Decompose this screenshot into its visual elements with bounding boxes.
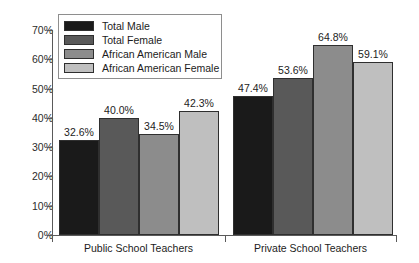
x-axis-tick-start (52, 236, 53, 242)
legend-swatch-total-female (64, 35, 94, 45)
legend-swatch-total-male (64, 21, 94, 31)
bar-value-label: 32.6% (53, 127, 105, 138)
legend-label-total-female: Total Female (102, 35, 162, 46)
y-axis-tick-30%: 30% (0, 147, 53, 148)
bar-value-label: 64.8% (307, 32, 359, 43)
y-axis-tick-70%: 70% (0, 30, 53, 31)
y-axis-tick-10%: 10% (0, 206, 53, 207)
legend: Total Male Total Female African American… (58, 14, 222, 79)
bar-value-label: 42.3% (173, 98, 225, 109)
legend-label-african-american-female: African American Female (102, 63, 219, 74)
legend-item-aa-female: African American Female (64, 61, 216, 75)
bar (179, 111, 219, 235)
bar-value-label: 47.4% (227, 83, 279, 94)
x-axis-tick-middle (225, 236, 226, 242)
bar (233, 96, 273, 235)
bar-value-label: 59.1% (347, 49, 399, 60)
y-axis-tick-40%: 40% (0, 118, 53, 119)
bar-value-label: 34.5% (133, 121, 185, 132)
y-axis-tick-0%: 0% (0, 235, 53, 236)
bar (313, 45, 353, 235)
bar-value-label: 53.6% (267, 65, 319, 76)
legend-label-total-male: Total Male (102, 21, 150, 32)
y-axis-tick-20%: 20% (0, 176, 53, 177)
bar (139, 134, 179, 235)
legend-swatch-african-american-male (64, 49, 94, 59)
x-axis-group-label-public: Public School Teachers (52, 243, 225, 254)
y-axis-tick-60%: 60% (0, 59, 53, 60)
legend-item-total-male: Total Male (64, 19, 216, 33)
bar (273, 78, 313, 235)
bar (99, 118, 139, 235)
bar-chart: 0%10%20%30%40%50%60%70% 32.6%40.0%34.5%4… (0, 0, 419, 263)
bar (59, 140, 99, 235)
bar (353, 62, 393, 235)
bar-value-label: 40.0% (93, 105, 145, 116)
x-axis-group-label-private: Private School Teachers (225, 243, 396, 254)
x-axis-tick-end (396, 236, 397, 242)
legend-swatch-african-american-female (64, 63, 94, 73)
legend-label-african-american-male: African American Male (102, 49, 207, 60)
y-axis-tick-50%: 50% (0, 89, 53, 90)
legend-item-aa-male: African American Male (64, 47, 216, 61)
legend-item-total-female: Total Female (64, 33, 216, 47)
